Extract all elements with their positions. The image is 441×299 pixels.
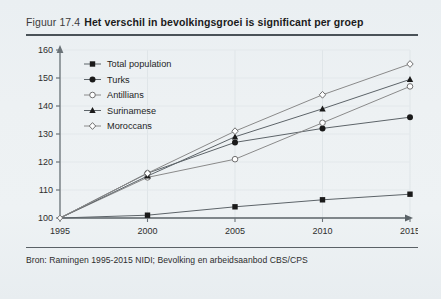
marker-filled-circle: [320, 125, 326, 131]
marker-filled-square: [232, 204, 237, 209]
marker-open-circle: [90, 92, 96, 98]
marker-open-diamond: [89, 122, 95, 129]
x-axis-tick-label: 1995: [50, 226, 70, 236]
figure-container: Figuur 17.4Het verschil in bevolkingsgro…: [26, 16, 418, 284]
marker-open-circle: [320, 120, 326, 126]
y-axis-tick-label: 100: [38, 213, 53, 223]
y-axis-tick-label: 110: [39, 185, 53, 195]
chart-legend: Total populationTurksAntilliansSurinames…: [84, 59, 171, 131]
legend-label: Total population: [107, 59, 171, 69]
legend-item-moroccans: Moroccans: [84, 121, 152, 131]
legend-label: Turks: [107, 74, 130, 84]
x-axis-tick-label: 2010: [312, 226, 332, 236]
x-axis-tick-label: 2005: [225, 226, 245, 236]
y-axis-tick-label: 160: [38, 45, 53, 55]
source-note: Bron: Ramingen 1995-2015 NIDI; Bevolking…: [26, 255, 418, 265]
caption-divider: [26, 34, 418, 36]
marker-filled-square: [145, 212, 150, 217]
legend-item-antillians: Antillians: [84, 90, 144, 100]
figure-caption: Figuur 17.4Het verschil in bevolkingsgro…: [26, 16, 418, 30]
marker-open-diamond: [57, 215, 62, 221]
figure-title: Het verschil in bevolkingsgroei is signi…: [84, 16, 363, 28]
x-axis-tick-label: 2015: [400, 226, 418, 236]
marker-open-circle: [407, 83, 413, 89]
legend-label: Moroccans: [107, 121, 152, 131]
marker-filled-square: [90, 61, 95, 66]
y-axis-tick-label: 120: [38, 157, 53, 167]
figure-number: Figuur 17.4: [26, 16, 80, 28]
legend-label: Antillians: [107, 90, 144, 100]
x-axis-tick-label: 2000: [137, 226, 157, 236]
marker-filled-circle: [407, 114, 413, 120]
marker-filled-square: [407, 191, 412, 196]
legend-item-surinamese: Surinamese: [84, 105, 156, 115]
marker-filled-circle: [232, 139, 238, 145]
y-axis-tick-label: 140: [38, 101, 53, 111]
marker-open-diamond: [407, 60, 413, 67]
marker-filled-circle: [90, 76, 96, 82]
legend-item-total-population: Total population: [84, 59, 171, 69]
source-divider: [26, 247, 418, 248]
series-total-population: [60, 191, 413, 218]
legend-item-turks: Turks: [84, 74, 130, 84]
chart-plot-area: 1001101201301401501601995200020052010201…: [26, 42, 418, 247]
y-axis-tick-label: 150: [38, 73, 53, 83]
marker-filled-triangle: [407, 76, 413, 82]
legend-label: Surinamese: [107, 105, 156, 115]
marker-open-circle: [232, 156, 238, 162]
line-chart: 1001101201301401501601995200020052010201…: [26, 42, 418, 247]
y-axis-tick-label: 130: [38, 129, 53, 139]
x-axis-arrow: [405, 214, 413, 221]
marker-filled-square: [320, 197, 325, 202]
marker-open-diamond: [319, 91, 325, 98]
y-axis-arrow: [57, 45, 64, 53]
